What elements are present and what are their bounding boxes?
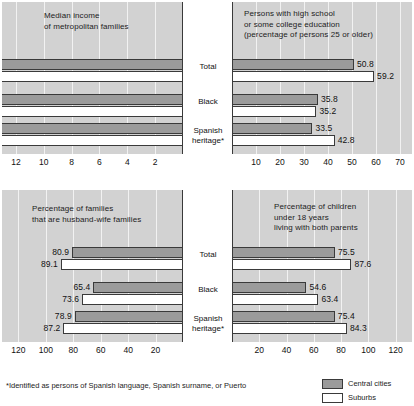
tick-label: 2 — [153, 156, 158, 168]
bar-value-label: 89.1 — [41, 259, 58, 270]
bar-husband-wife-families-total-suburbs — [61, 259, 183, 270]
bar-median-income-black-central-cities — [2, 94, 183, 105]
category-label-total-2: Total — [183, 250, 233, 260]
x-axis-ticks-husband-wife-families: 12010080604020 — [2, 344, 183, 356]
bar-high-school-education-black-suburbs — [232, 106, 316, 117]
bar-median-income-spanish-heritage-suburbs — [2, 135, 183, 146]
gridline — [400, 2, 401, 154]
bar-children-both-parents-spanish-heritage-central-cities — [232, 311, 335, 322]
bar-value-label: 75.4 — [338, 311, 355, 322]
bar-value-label: 75.5 — [338, 247, 355, 258]
tick-label: 80 — [69, 344, 78, 356]
tick-label: 80 — [336, 344, 345, 356]
bar-median-income-black-suburbs — [2, 106, 183, 117]
bar-value-label: 80.9 — [52, 247, 69, 258]
tick-label: 120 — [11, 344, 25, 356]
bar-high-school-education-black-central-cities — [232, 94, 318, 105]
bar-value-label: 59.2 — [377, 71, 394, 82]
footnote: *Identified as persons of Spanish langua… — [6, 381, 296, 391]
x-axis-ticks-high-school-education: 10203040506070 — [232, 156, 412, 168]
legend: Central cities Suburbs — [322, 378, 414, 406]
legend-item-suburbs: Suburbs — [322, 392, 414, 403]
bar-median-income-spanish-heritage-central-cities — [2, 123, 183, 134]
bar-children-both-parents-spanish-heritage-suburbs — [232, 323, 347, 334]
category-label-black: Black — [183, 97, 233, 107]
tick-label: 70 — [395, 156, 404, 168]
bar-husband-wife-families-total-central-cities — [72, 247, 183, 258]
chart-panel-median-income: $9,510$6,790$7,19011,2107,0008,960 Media… — [2, 2, 183, 154]
bar-value-label: 87.6 — [354, 259, 371, 270]
tick-label: 60 — [371, 156, 380, 168]
category-label-black-2: Black — [183, 285, 233, 295]
chart-panel-high-school-education: 50.835.833.559.235.242.8 Persons with hi… — [232, 2, 412, 154]
chart-title-children-both-parents: Percentage of children under 18 years li… — [274, 202, 358, 234]
tick-label: 40 — [323, 156, 332, 168]
tick-label: 120 — [389, 344, 403, 356]
bar-value-label: 63.4 — [321, 294, 338, 305]
tick-label: 40 — [123, 344, 132, 356]
tick-label: 50 — [347, 156, 356, 168]
bar-children-both-parents-black-central-cities — [232, 282, 306, 293]
chart-title-high-school-education: Persons with high school or some college… — [244, 9, 373, 41]
tick-label: 10 — [251, 156, 260, 168]
tick-label: 12 — [11, 156, 20, 168]
tick-label: 20 — [255, 344, 264, 356]
tick-label: 30 — [299, 156, 308, 168]
chart-title-median-income: Median income of metropolitan families — [44, 11, 129, 32]
legend-swatch-central-cities — [322, 379, 343, 389]
legend-label-central-cities: Central cities — [348, 379, 391, 389]
tick-label: 100 — [39, 344, 53, 356]
bar-value-label: 42.8 — [338, 135, 355, 146]
chart-panel-husband-wife-families: 80.965.478.989.173.687.2 Percentage of f… — [2, 190, 183, 342]
bar-value-label: 50.8 — [357, 59, 374, 70]
tick-label: 20 — [275, 156, 284, 168]
bar-husband-wife-families-black-central-cities — [93, 282, 183, 293]
bar-median-income-total-central-cities — [2, 59, 183, 70]
tick-label: 40 — [282, 344, 291, 356]
category-label-total: Total — [183, 62, 233, 72]
legend-label-suburbs: Suburbs — [348, 393, 376, 403]
bar-children-both-parents-total-suburbs — [232, 259, 351, 270]
bar-value-label: 78.9 — [55, 311, 72, 322]
tick-label: 60 — [96, 344, 105, 356]
bar-value-label: 35.8 — [321, 94, 338, 105]
category-label-spanish-heritage: Spanish heritage* — [183, 126, 233, 146]
bar-value-label: 35.2 — [319, 106, 336, 117]
bar-value-label: 33.5 — [315, 123, 332, 134]
bar-high-school-education-total-suburbs — [232, 71, 374, 82]
bar-husband-wife-families-spanish-heritage-central-cities — [75, 311, 183, 322]
bar-median-income-total-suburbs — [2, 71, 183, 82]
legend-item-central-cities: Central cities — [322, 378, 414, 389]
bar-high-school-education-total-central-cities — [232, 59, 354, 70]
gridline — [396, 190, 397, 342]
bar-value-label: 73.6 — [62, 294, 79, 305]
tick-label: 8 — [69, 156, 74, 168]
bar-husband-wife-families-spanish-heritage-suburbs — [63, 323, 183, 334]
tick-label: 60 — [309, 344, 318, 356]
bar-high-school-education-spanish-heritage-suburbs — [232, 135, 335, 146]
bar-children-both-parents-black-suburbs — [232, 294, 318, 305]
tick-label: 10 — [39, 156, 48, 168]
bar-value-label: 54.6 — [309, 282, 326, 293]
chart-title-husband-wife-families: Percentage of families that are husband-… — [32, 204, 141, 225]
tick-label: 20 — [151, 344, 160, 356]
bar-children-both-parents-total-central-cities — [232, 247, 335, 258]
tick-label: 100 — [361, 344, 375, 356]
bar-value-label: 65.4 — [73, 282, 90, 293]
bar-value-label: 87.2 — [43, 323, 60, 334]
tick-label: 6 — [97, 156, 102, 168]
bar-high-school-education-spanish-heritage-central-cities — [232, 123, 312, 134]
x-axis-ticks-median-income: 12108642 — [2, 156, 183, 168]
chart-panel-children-both-parents: 75.554.675.487.663.484.3 Percentage of c… — [232, 190, 412, 342]
x-axis-ticks-children-both-parents: 20406080100120 — [232, 344, 412, 356]
bar-husband-wife-families-black-suburbs — [82, 294, 183, 305]
bar-value-label: 84.3 — [350, 323, 367, 334]
gridline — [18, 190, 19, 342]
tick-label: 4 — [125, 156, 130, 168]
legend-swatch-suburbs — [322, 393, 343, 403]
category-label-spanish-heritage-2: Spanish heritage* — [183, 314, 233, 334]
